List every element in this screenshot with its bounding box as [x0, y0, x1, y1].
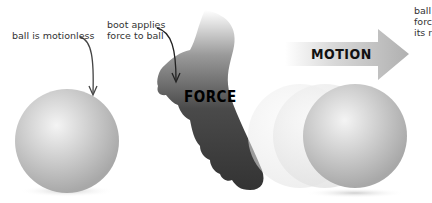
motionless-annotation: ball is motionless [12, 30, 94, 41]
right-annotation-line2: forc [414, 16, 432, 27]
pointer-arrow-motionless [80, 37, 97, 95]
motionless-ball [15, 89, 119, 197]
boot-annotation-line2: force to ball [107, 30, 164, 41]
right-annotation-line3: its r [414, 27, 432, 38]
motion-label: MOTION [311, 46, 372, 62]
right-annotation-line1: ball [414, 5, 431, 16]
force-label: FORCE [184, 88, 237, 106]
boot-annotation-line1: boot applies [107, 19, 165, 30]
